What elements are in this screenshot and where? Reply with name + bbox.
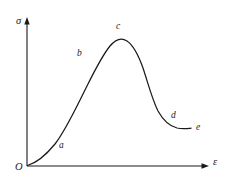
x-axis-arrowhead-icon <box>202 163 210 168</box>
y-axis-arrowhead-icon <box>24 17 29 25</box>
plot-canvas <box>0 0 230 180</box>
origin-label: O <box>15 162 23 173</box>
curve-point-label-c: c <box>116 22 120 32</box>
curve-point-label-a: a <box>59 141 64 151</box>
curve-point-label-e: e <box>196 123 200 133</box>
stress-strain-curve <box>28 39 192 165</box>
y-axis-label-sigma: σ <box>16 16 21 27</box>
curve-point-label-d: d <box>171 111 176 121</box>
curve-point-label-b: b <box>77 49 82 59</box>
x-axis-label-epsilon: ε <box>213 157 217 168</box>
stress-strain-figure: σ ε O a b c d e <box>0 0 230 180</box>
